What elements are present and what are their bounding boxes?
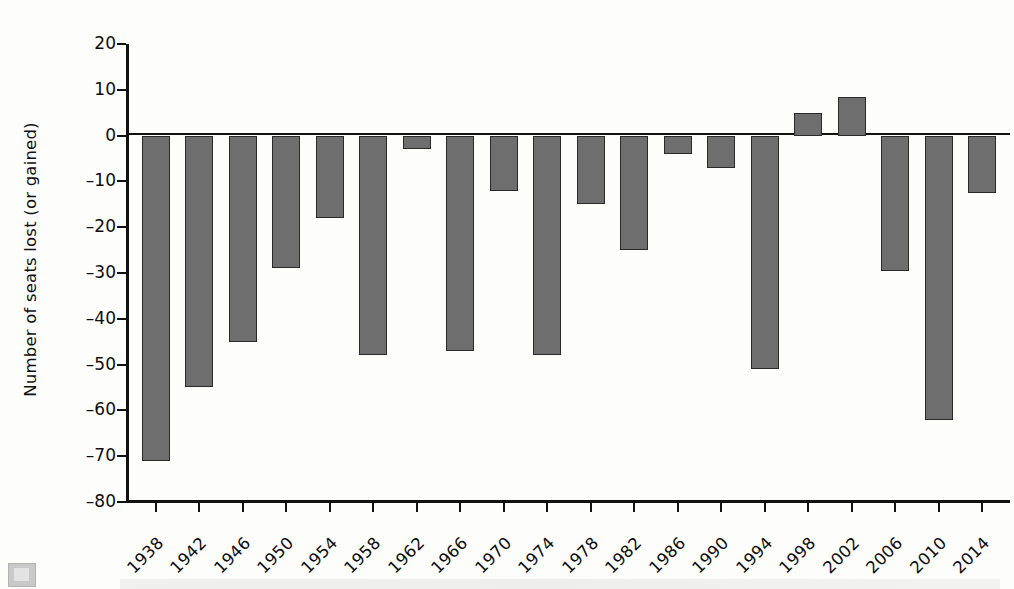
bar	[838, 97, 866, 136]
x-tick-label: 2014	[950, 533, 994, 577]
x-tick-mark	[633, 501, 635, 512]
y-tick-label: –70	[46, 447, 116, 464]
page-corner-marker	[8, 563, 36, 587]
x-tick-label: 1946	[210, 533, 254, 577]
zero-reference-line	[126, 133, 1010, 135]
bar	[881, 136, 909, 271]
x-tick-label: 1990	[689, 533, 733, 577]
y-tick-mark	[117, 455, 126, 457]
bar	[620, 136, 648, 251]
y-tick-mark	[117, 272, 126, 274]
x-tick-mark	[546, 501, 548, 512]
x-tick-mark	[938, 501, 940, 512]
y-tick-mark	[117, 318, 126, 320]
page-corner-marker-inner	[14, 568, 29, 581]
x-tick-mark	[503, 501, 505, 512]
x-tick-mark	[329, 501, 331, 512]
x-tick-mark	[198, 501, 200, 512]
y-tick-mark	[117, 89, 126, 91]
x-tick-label: 1950	[254, 533, 298, 577]
bar	[794, 113, 822, 136]
y-tick-label: –80	[46, 493, 116, 510]
x-tick-label: 1938	[123, 533, 167, 577]
x-tick-label: 1994	[732, 533, 776, 577]
x-tick-label: 1942	[167, 533, 211, 577]
y-tick-mark	[117, 226, 126, 228]
bar	[446, 136, 474, 351]
x-tick-label: 1970	[471, 533, 515, 577]
y-tick-mark	[117, 364, 126, 366]
bar-chart-figure: Number of seats lost (or gained) 20100–1…	[0, 0, 1014, 589]
bar	[316, 136, 344, 218]
x-tick-mark	[720, 501, 722, 512]
y-tick-mark	[117, 501, 126, 503]
x-tick-mark	[372, 501, 374, 512]
x-tick-label: 1962	[384, 533, 428, 577]
x-tick-mark	[285, 501, 287, 512]
y-axis-spine	[126, 44, 129, 502]
x-tick-label: 1966	[428, 533, 472, 577]
y-tick-label: –10	[46, 172, 116, 189]
y-tick-mark	[117, 43, 126, 45]
x-tick-label: 2010	[906, 533, 950, 577]
bar	[751, 136, 779, 370]
y-axis-title-area: Number of seats lost (or gained)	[0, 0, 46, 520]
x-tick-label: 1958	[341, 533, 385, 577]
x-tick-mark	[981, 501, 983, 512]
y-tick-label: –30	[46, 264, 116, 281]
y-tick-label: –40	[46, 310, 116, 327]
bar	[968, 136, 996, 193]
x-tick-mark	[677, 501, 679, 512]
bar	[490, 136, 518, 191]
x-tick-label: 2002	[819, 533, 863, 577]
y-tick-label: 20	[46, 35, 116, 52]
x-tick-label: 1974	[515, 533, 559, 577]
x-tick-mark	[590, 501, 592, 512]
plot-area: 20100–10–20–30–40–50–60–70–80 1938194219…	[126, 44, 1010, 502]
x-tick-mark	[155, 501, 157, 512]
y-tick-label: 0	[46, 127, 116, 144]
y-tick-label: –60	[46, 401, 116, 418]
y-axis-title: Number of seats lost (or gained)	[21, 25, 40, 495]
x-tick-label: 1954	[297, 533, 341, 577]
y-tick-label: 10	[46, 81, 116, 98]
bar	[925, 136, 953, 420]
x-tick-label: 2006	[863, 533, 907, 577]
x-tick-label: 1978	[558, 533, 602, 577]
bar	[664, 136, 692, 154]
x-tick-label: 1982	[602, 533, 646, 577]
bar	[272, 136, 300, 269]
bar	[185, 136, 213, 388]
y-tick-mark	[117, 409, 126, 411]
bar	[577, 136, 605, 205]
x-tick-mark	[851, 501, 853, 512]
x-tick-mark	[764, 501, 766, 512]
x-tick-mark	[894, 501, 896, 512]
x-tick-mark	[807, 501, 809, 512]
bar	[403, 136, 431, 150]
bar	[142, 136, 170, 461]
x-tick-mark	[242, 501, 244, 512]
bar	[359, 136, 387, 356]
y-tick-label: –50	[46, 356, 116, 373]
page-scan-smudge	[120, 579, 1000, 589]
y-tick-label: –20	[46, 218, 116, 235]
x-tick-mark	[416, 501, 418, 512]
y-axis-tick-labels: 20100–10–20–30–40–50–60–70–80	[42, 44, 116, 502]
x-axis-spine	[126, 500, 1010, 503]
y-tick-mark	[117, 135, 126, 137]
bar	[707, 136, 735, 168]
bar	[533, 136, 561, 356]
y-tick-mark	[117, 180, 126, 182]
x-tick-label: 1986	[645, 533, 689, 577]
x-tick-mark	[459, 501, 461, 512]
x-tick-label: 1998	[776, 533, 820, 577]
bar	[229, 136, 257, 342]
